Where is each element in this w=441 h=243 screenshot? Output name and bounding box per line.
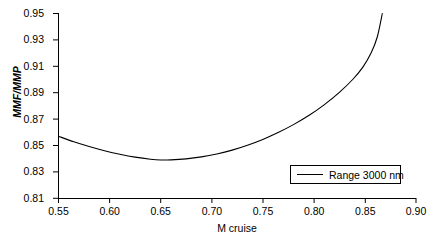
y-tick-label-5: 0.85 xyxy=(10,140,44,151)
y-tick-label-0: 0.95 xyxy=(10,8,44,19)
y-tick-label-1: 0.93 xyxy=(10,34,44,45)
x-tick-label-6: 0.85 xyxy=(345,206,385,217)
y-axis-title: MMF/MMP xyxy=(11,59,23,125)
legend-line-swatch xyxy=(297,174,323,175)
y-axis-ticks xyxy=(53,14,58,199)
x-tick-label-2: 0.65 xyxy=(141,206,181,217)
x-tick-label-1: 0.60 xyxy=(90,206,130,217)
x-tick-label-3: 0.70 xyxy=(192,206,232,217)
chart-figure: 0.95 0.93 0.91 0.89 0.87 0.85 0.83 0.81 … xyxy=(0,0,441,243)
x-tick-label-5: 0.80 xyxy=(294,206,334,217)
x-axis-title: M cruise xyxy=(58,222,416,234)
x-tick-label-0: 0.55 xyxy=(39,206,79,217)
data-series-range-3000-nm xyxy=(59,14,383,161)
y-tick-label-6: 0.83 xyxy=(10,166,44,177)
x-tick-label-7: 0.90 xyxy=(396,206,436,217)
y-tick-label-7: 0.81 xyxy=(10,193,44,204)
chart-legend: Range 3000 nm xyxy=(290,165,401,184)
x-tick-label-4: 0.75 xyxy=(243,206,283,217)
legend-entry-label: Range 3000 nm xyxy=(329,169,404,181)
